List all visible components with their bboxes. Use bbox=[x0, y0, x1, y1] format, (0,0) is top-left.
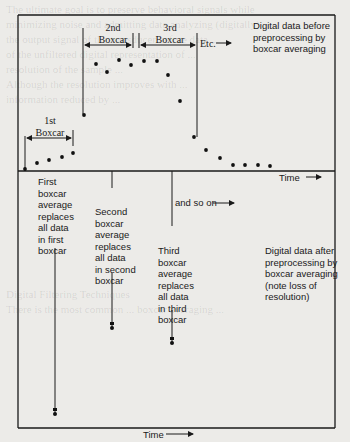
averaged-markers bbox=[53, 322, 174, 416]
time-label-top: Time bbox=[279, 172, 300, 184]
second-boxcar-note: Second boxcar average replaces all data … bbox=[95, 206, 136, 287]
before-title: Digital data before preprocessing by box… bbox=[253, 20, 330, 55]
boxcar-2-label: 2nd Boxcar bbox=[93, 22, 133, 45]
boxcar-3-bracket bbox=[139, 33, 197, 137]
third-boxcar-note: Third boxcar average replaces all data i… bbox=[158, 245, 194, 326]
etc-label: Etc. bbox=[200, 38, 216, 50]
time-label-bottom: Time bbox=[143, 429, 164, 441]
first-boxcar-note: First boxcar average replaces all data i… bbox=[38, 176, 74, 257]
and-so-on-label: and so on bbox=[175, 197, 217, 209]
boxcar-1-label: 1st Boxcar bbox=[30, 115, 70, 138]
after-title: Digital data after preprocessing by boxc… bbox=[265, 245, 338, 303]
boxcar-3-label: 3rd Boxcar bbox=[150, 22, 190, 45]
